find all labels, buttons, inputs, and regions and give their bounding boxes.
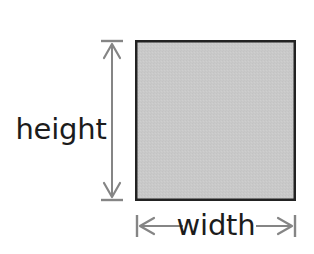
- width-label: width: [177, 208, 256, 242]
- shaded-rectangle: [136, 41, 295, 200]
- shaded-rectangle-group: [136, 41, 295, 200]
- height-label: height: [15, 112, 106, 146]
- diagram-canvas: height width: [0, 0, 314, 254]
- geometry-diagram: height width: [0, 0, 314, 254]
